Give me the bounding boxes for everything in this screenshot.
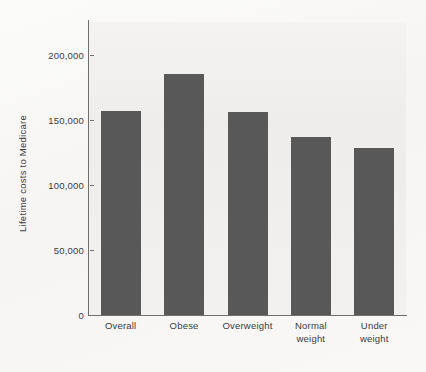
bar — [228, 112, 268, 315]
bar — [291, 137, 331, 315]
bar — [164, 74, 204, 315]
bar — [101, 111, 141, 315]
y-tick-mark — [90, 185, 94, 186]
x-tick-label: Overweight — [216, 320, 279, 333]
x-tick-label-line: weight — [279, 333, 342, 346]
y-tick-label: 200,000 — [10, 49, 84, 60]
y-tick-mark — [90, 55, 94, 56]
bar — [354, 148, 394, 315]
y-tick-mark — [90, 120, 94, 121]
x-tick-label-line: Overall — [89, 320, 152, 333]
y-tick-label: 0 — [10, 310, 84, 321]
x-tick-label: Normalweight — [279, 320, 342, 345]
x-tick-label: Underweight — [343, 320, 406, 345]
y-axis-title: Lifetime costs to Medicare — [17, 84, 28, 264]
y-axis-line — [88, 20, 89, 316]
x-tick-label: Overall — [89, 320, 152, 333]
x-tick-label-line: Overweight — [216, 320, 279, 333]
x-tick-label-line: Obese — [152, 320, 215, 333]
y-tick-mark — [90, 315, 94, 316]
x-tick-label-line: Under — [343, 320, 406, 333]
x-tick-label-line: weight — [343, 333, 406, 346]
x-tick-label: Obese — [152, 320, 215, 333]
y-tick-mark — [90, 250, 94, 251]
bar-chart-figure: 050,000100,000150,000200,000 Lifetime co… — [0, 0, 426, 372]
x-axis-line — [88, 315, 407, 316]
x-tick-label-line: Normal — [279, 320, 342, 333]
